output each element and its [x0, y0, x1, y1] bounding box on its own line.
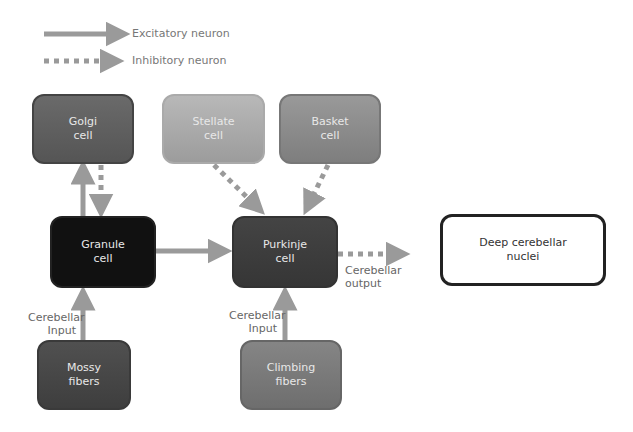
node-label: cell [81, 252, 125, 266]
node-granule-cell: Granulecell [50, 216, 156, 288]
node-basket-cell: Basketcell [279, 94, 381, 164]
legend-inhibitory-label: Inhibitory neuron [132, 54, 227, 67]
label-line: output [345, 277, 402, 290]
node-label: fibers [67, 375, 101, 389]
node-label: cell [263, 252, 307, 266]
node-label: nuclei [479, 250, 566, 264]
node-label: Climbing [267, 361, 316, 375]
label-line: Cerebellar [229, 309, 277, 322]
node-climbing-fibers: Climbingfibers [240, 340, 342, 410]
node-label: Stellate [193, 115, 235, 129]
label-line: Cerebellar [345, 264, 402, 277]
node-label: fibers [267, 375, 316, 389]
label-cerebellar-input-left: CerebellarInput [28, 311, 76, 337]
label-cerebellar-input-right: CerebellarInput [229, 309, 277, 335]
label-cerebellar-output: Cerebellaroutput [345, 264, 402, 290]
node-stellate-cell: Stellatecell [162, 94, 265, 164]
node-label: Golgi [69, 115, 97, 129]
node-purkinje-cell: Purkinjecell [232, 216, 338, 288]
node-label: Granule [81, 238, 125, 252]
node-label: Mossy [67, 361, 101, 375]
node-label: Deep cerebellar [479, 236, 566, 250]
node-label: cell [193, 129, 235, 143]
node-golgi-cell: Golgicell [32, 94, 134, 164]
node-label: Basket [311, 115, 348, 129]
node-label: cell [311, 129, 348, 143]
label-line: Input [229, 322, 277, 335]
node-label: cell [69, 129, 97, 143]
node-deep-cerebellar-nuclei: Deep cerebellarnuclei [440, 214, 606, 286]
label-line: Cerebellar [28, 311, 76, 324]
node-mossy-fibers: Mossyfibers [37, 340, 131, 410]
label-line: Input [28, 324, 76, 337]
legend-excitatory-label: Excitatory neuron [132, 27, 230, 40]
node-label: Purkinje [263, 238, 307, 252]
